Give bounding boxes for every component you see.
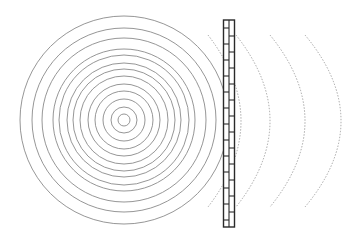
wave-ring — [59, 55, 189, 185]
wave-ring — [111, 107, 137, 133]
sound-source-rings — [20, 16, 228, 224]
wave-ring — [67, 63, 181, 177]
wave-ring — [80, 76, 168, 164]
wave-ring — [88, 84, 160, 156]
diagram-canvas — [0, 0, 358, 241]
wave-ring — [95, 91, 153, 149]
transmitted-wave-arc — [270, 35, 305, 207]
wave-ring — [53, 49, 195, 191]
wave-ring — [118, 114, 130, 126]
wave-ring — [20, 16, 228, 224]
sound-wall-diagram — [0, 0, 358, 241]
wave-ring — [32, 28, 216, 212]
wave-ring — [103, 99, 145, 141]
transmitted-wave-arc — [305, 35, 341, 207]
brick-wall — [224, 20, 235, 227]
